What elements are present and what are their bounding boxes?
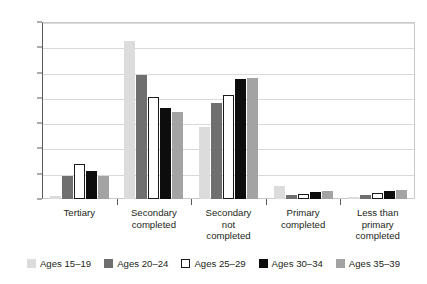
bar [310, 192, 321, 199]
bar [160, 108, 171, 199]
bar [86, 171, 97, 199]
bar-group [117, 22, 192, 199]
bar [396, 190, 407, 199]
bar-group [191, 22, 266, 199]
legend-swatch-icon [336, 259, 345, 268]
legend-item[interactable]: Ages 35–39 [336, 258, 400, 269]
legend-item[interactable]: Ages 20–24 [104, 258, 168, 269]
x-axis: TertiarySecondarycompletedSecondarynotco… [42, 199, 415, 245]
bar [384, 191, 395, 199]
bar [98, 176, 109, 199]
bar [223, 95, 234, 199]
x-axis-category-label: Secondarynotcompleted [191, 207, 266, 242]
x-axis-separator [340, 199, 341, 205]
x-axis-separator [117, 199, 118, 205]
bar [211, 103, 222, 199]
bar [322, 191, 333, 199]
bar [172, 112, 183, 199]
legend-swatch-icon [259, 259, 268, 268]
bar-chart: 0%10%20%30%40%50%60%70% TertiarySecondar… [0, 0, 427, 284]
y-axis: 0%10%20%30%40%50%60%70% [0, 0, 42, 210]
x-axis-separator [266, 199, 267, 205]
legend-label: Ages 30–34 [272, 258, 323, 269]
bar [235, 79, 246, 199]
legend-item[interactable]: Ages 30–34 [259, 258, 323, 269]
bar [124, 41, 135, 199]
legend-swatch-icon [181, 259, 190, 268]
legend-label: Ages 25–29 [194, 258, 245, 269]
legend-item[interactable]: Ages 25–29 [181, 258, 245, 269]
legend-label: Ages 15–19 [40, 258, 91, 269]
bar [74, 164, 85, 199]
legend-label: Ages 20–24 [117, 258, 168, 269]
legend-label: Ages 35–39 [349, 258, 400, 269]
bar-group [42, 22, 117, 199]
x-axis-category-label: Secondarycompleted [117, 207, 192, 230]
legend-item[interactable]: Ages 15–19 [27, 258, 91, 269]
legend-swatch-icon [27, 259, 36, 268]
bar [199, 127, 210, 199]
bar [274, 186, 285, 199]
bar-groups [42, 22, 415, 199]
x-axis-category-label: Less thanprimarycompleted [340, 207, 415, 242]
bar [62, 176, 73, 199]
x-axis-category-label: Tertiary [42, 207, 117, 219]
bar [136, 75, 147, 199]
bar [247, 78, 258, 199]
x-axis-category-label: Primarycompleted [266, 207, 341, 230]
chart-legend: Ages 15–19Ages 20–24Ages 25–29Ages 30–34… [0, 253, 427, 273]
bar-group [340, 22, 415, 199]
bar [148, 97, 159, 199]
x-axis-separator [191, 199, 192, 205]
legend-swatch-icon [104, 259, 113, 268]
bar-group [266, 22, 341, 199]
